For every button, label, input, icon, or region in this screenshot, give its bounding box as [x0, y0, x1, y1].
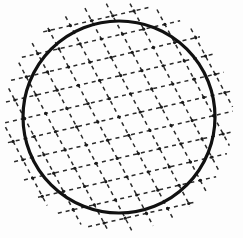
lattice-node: [137, 152, 140, 155]
lattice-node: [57, 47, 60, 50]
lattice-node: [140, 69, 143, 72]
lattice-node: [168, 165, 171, 168]
lattice-node: [139, 111, 142, 114]
lattice-node: [116, 157, 119, 160]
lattice-node: [162, 64, 165, 67]
lattice-node: [11, 140, 14, 143]
lattice-node: [177, 184, 180, 187]
lattice-node: [41, 195, 44, 198]
lattice-node: [169, 124, 172, 127]
lattice-node: [127, 134, 130, 137]
lattice-node: [150, 87, 153, 90]
lattice-node: [94, 162, 97, 165]
lattice-node: [210, 156, 213, 159]
lattice-node: [163, 23, 166, 26]
lattice-node: [106, 139, 109, 142]
lattice-node: [96, 120, 99, 123]
lattice-node: [75, 125, 78, 128]
lattice-node: [194, 36, 197, 39]
lattice-node: [36, 52, 39, 55]
lattice-node: [85, 143, 88, 146]
lattice-node: [204, 54, 207, 57]
lattice-node: [52, 172, 55, 175]
lattice-node: [102, 221, 105, 224]
lattice-node: [111, 14, 114, 17]
lattice-node: [145, 212, 148, 215]
lattice-node: [56, 89, 59, 92]
lattice-node: [119, 74, 122, 77]
lattice-node: [108, 97, 111, 100]
lattice-node: [189, 160, 192, 163]
lattice-node: [147, 170, 150, 173]
lattice-node: [13, 98, 16, 101]
lattice-node: [100, 37, 103, 40]
lattice-node: [93, 203, 96, 206]
lattice-node: [83, 185, 86, 188]
lattice-node: [109, 56, 112, 59]
lattice-node: [121, 32, 124, 35]
lattice-node: [46, 70, 49, 73]
lattice-node: [44, 112, 47, 115]
lattice-node: [135, 193, 138, 196]
lattice-node: [166, 207, 169, 210]
lattice-node: [187, 202, 190, 205]
lattice-node: [214, 73, 217, 76]
lattice-node: [200, 137, 203, 140]
lattice-node: [125, 175, 128, 178]
lattice-node: [223, 91, 226, 94]
lattice-node: [79, 42, 82, 45]
lattice-node: [21, 158, 24, 161]
lattice-node: [31, 176, 34, 179]
lattice-node: [48, 29, 51, 32]
lattice-node: [192, 78, 195, 81]
lattice-node: [98, 79, 101, 82]
lattice-node: [129, 92, 132, 95]
lattice-node: [132, 9, 135, 12]
lattice-node: [142, 28, 145, 31]
lattice-node: [34, 94, 37, 97]
lattice-node: [104, 180, 107, 183]
lattice-node: [160, 106, 163, 109]
lattice-node: [88, 61, 91, 64]
lattice-node: [181, 101, 184, 104]
figure-canvas: Dashed diagonal lattice inscribed in a b…: [0, 0, 243, 238]
lattice-node: [65, 107, 68, 110]
lattice-node: [131, 51, 134, 54]
lattice-node: [199, 179, 202, 182]
lattice-node: [191, 119, 194, 122]
lattice-node: [179, 142, 182, 145]
lattice-node: [183, 59, 186, 62]
lattice-node: [148, 129, 151, 132]
lattice-node: [202, 96, 205, 99]
lattice-node: [64, 148, 67, 151]
lattice-node: [114, 198, 117, 201]
lattice-node: [124, 217, 127, 220]
lattice-node: [90, 19, 93, 22]
lattice-node: [33, 135, 36, 138]
lattice-node: [42, 153, 45, 156]
lattice-node: [156, 189, 159, 192]
lattice-node: [117, 115, 120, 118]
lattice-node: [87, 102, 90, 105]
lattice-node: [222, 132, 225, 135]
paper-background: [0, 0, 243, 238]
line-drawing-svg: Dashed diagonal lattice inscribed in a b…: [0, 0, 243, 238]
lattice-node: [69, 24, 72, 27]
lattice-node: [54, 130, 57, 133]
lattice-node: [25, 75, 28, 78]
lattice-node: [72, 208, 75, 211]
lattice-node: [152, 46, 155, 49]
lattice-node: [77, 84, 80, 87]
lattice-node: [158, 147, 161, 150]
lattice-node: [73, 167, 76, 170]
lattice-node: [67, 65, 70, 68]
lattice-node: [171, 82, 174, 85]
